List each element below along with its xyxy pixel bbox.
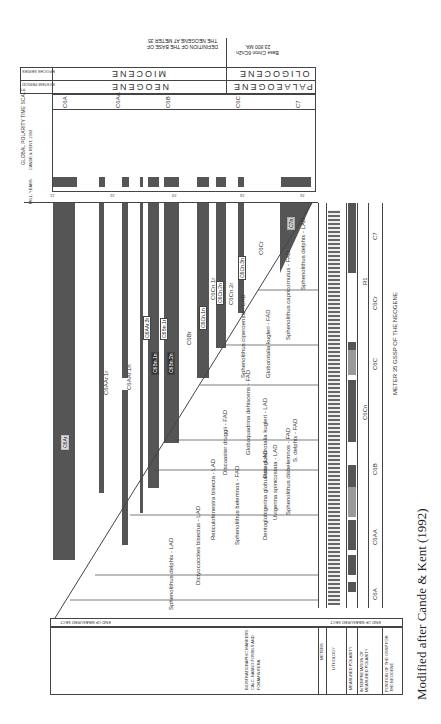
gssp-label: METER 35 GSSP OF THE NEOGENE: [392, 292, 398, 395]
stratigraphic-figure: DEFINITION OF THE BASE OF THE NEOGENE AT…: [0, 0, 441, 724]
figure-caption: Modified after Cande & Kent (1992): [414, 508, 430, 700]
lithology-column: [328, 210, 340, 605]
